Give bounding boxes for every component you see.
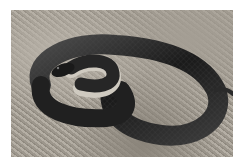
snake-eye — [57, 67, 59, 69]
snake-illustration — [11, 10, 233, 157]
snake-photo — [11, 10, 233, 157]
